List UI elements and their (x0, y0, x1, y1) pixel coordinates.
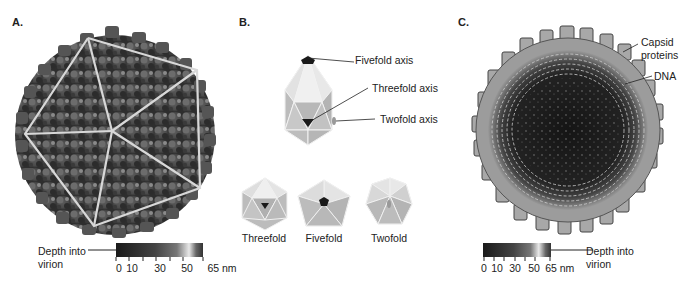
fivefold-view-label: Fivefold (306, 232, 343, 244)
panel-a-depth-colorbar (88, 243, 198, 263)
threefold-view-label: Threefold (242, 232, 286, 244)
panel-c-scale-caption: Depth into virion (586, 245, 634, 271)
virion-surface-rendering (0, 0, 230, 240)
fivefold-view (298, 180, 350, 226)
threefold-view (242, 178, 287, 230)
fivefold-axis-label: Fivefold axis (355, 54, 413, 67)
capsid-proteins-label: Capsid proteins (641, 36, 678, 62)
twofold-view-label: Twofold (371, 232, 407, 244)
twofold-marker-icon (332, 117, 336, 125)
threefold-axis-label: Threefold axis (372, 82, 438, 95)
panel-c-depth-colorbar (483, 243, 603, 263)
icosahedron-views (230, 170, 470, 230)
dna-label: DNA (654, 70, 676, 83)
fivefold-marker-icon (301, 56, 315, 64)
twofold-view (366, 178, 412, 224)
twofold-axis-label: Twofold axis (380, 113, 438, 126)
